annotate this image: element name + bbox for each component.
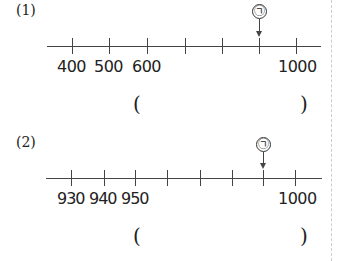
tick — [109, 38, 110, 54]
tick-label: 930 — [57, 189, 85, 208]
tick — [200, 170, 201, 186]
answer-close-paren: ) — [300, 224, 308, 248]
tick — [147, 38, 148, 54]
arrow-down-icon — [260, 163, 266, 169]
tick — [259, 38, 260, 54]
marker-circle-giyeok-icon: ㉠ — [252, 4, 267, 19]
page-edge-rule — [331, 0, 332, 261]
tick — [104, 170, 105, 186]
tick-label: 400 — [57, 57, 86, 76]
marker-circle-giyeok-icon: ㉠ — [256, 137, 271, 152]
problem-number: (2) — [16, 134, 36, 150]
tick — [263, 170, 264, 186]
tick — [185, 38, 186, 54]
answer-blank[interactable] — [145, 94, 295, 118]
tick-label: 500 — [94, 57, 123, 76]
tick — [135, 170, 136, 186]
tick — [232, 170, 233, 186]
tick-label: 1000 — [278, 189, 317, 208]
tick — [295, 170, 296, 186]
answer-close-paren: ) — [300, 92, 308, 116]
tick — [72, 38, 73, 54]
number-line — [47, 46, 321, 47]
answer-open-paren: ( — [133, 92, 141, 116]
problem-number: (1) — [16, 2, 36, 18]
tick — [71, 170, 72, 186]
tick — [222, 38, 223, 54]
tick — [296, 38, 297, 54]
arrow-down-icon — [256, 31, 262, 37]
number-line — [46, 178, 322, 179]
answer-blank[interactable] — [145, 226, 295, 250]
answer-open-paren: ( — [133, 224, 141, 248]
tick-label: 1000 — [278, 57, 317, 76]
tick-label: 940 — [89, 189, 117, 208]
tick-label: 950 — [121, 189, 149, 208]
tick — [167, 170, 168, 186]
tick-label: 600 — [132, 57, 161, 76]
